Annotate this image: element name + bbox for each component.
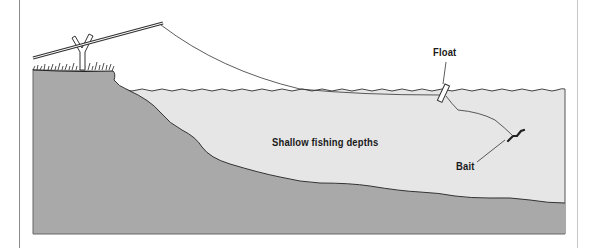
- float-label: Float: [433, 46, 456, 58]
- fishing-diagram: [0, 0, 594, 248]
- float-leader-line: [443, 62, 446, 84]
- fishing-rod: [33, 23, 163, 58]
- depth-label: Shallow fishing depths: [272, 136, 378, 148]
- fishing-line: [161, 25, 440, 95]
- bait-label: Bait: [456, 160, 474, 172]
